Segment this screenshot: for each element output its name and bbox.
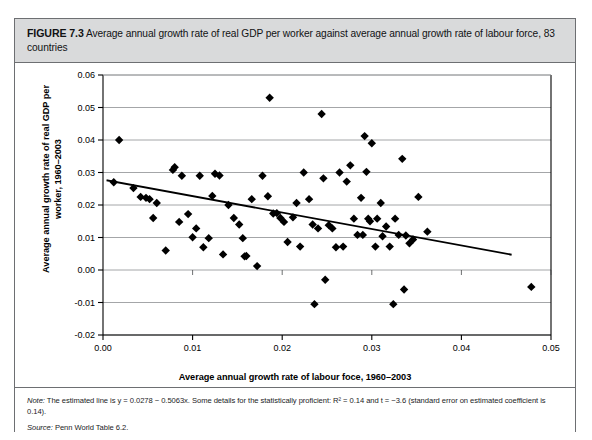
y-axis-tick-label: 0.04 — [77, 135, 95, 145]
source-paragraph: Source: Penn World Table 6.2. — [27, 423, 563, 434]
gridlines — [103, 75, 551, 335]
x-axis-title: Average annual growth rate of labour foc… — [15, 372, 575, 382]
data-point — [335, 168, 343, 176]
data-point — [414, 193, 422, 201]
chart-region: -0.02-0.010.000.010.020.030.040.050.060.… — [15, 63, 575, 388]
x-axis-tick-label: 0.05 — [542, 343, 560, 353]
data-point — [319, 174, 327, 182]
data-point — [219, 250, 227, 258]
data-point — [362, 168, 370, 176]
data-point — [398, 155, 406, 163]
data-point — [371, 242, 379, 250]
data-point — [377, 199, 385, 207]
y-axis-tick-label: 0.03 — [77, 168, 95, 178]
data-point — [235, 220, 243, 228]
data-point — [239, 234, 247, 242]
data-point — [357, 194, 365, 202]
figure-container: FIGURE 7.3 Average annual growth rate of… — [14, 18, 576, 432]
figure-number-label: FIGURE 7.3 — [27, 27, 84, 39]
data-point — [389, 300, 397, 308]
data-point — [253, 262, 261, 270]
data-point — [360, 132, 368, 140]
data-point — [205, 234, 213, 242]
data-point — [527, 283, 535, 291]
x-axis-tick-label: 0.04 — [453, 343, 471, 353]
figure-caption-text: Average annual growth rate of real GDP p… — [27, 28, 555, 53]
figure-caption: FIGURE 7.3 Average annual growth rate of… — [27, 26, 565, 55]
data-point — [265, 94, 273, 102]
data-point — [373, 214, 381, 222]
note-label: Note: — [27, 396, 45, 405]
x-axis-tick-label: 0.01 — [184, 343, 202, 353]
source-label: Source: — [27, 423, 53, 432]
data-point — [115, 136, 123, 144]
trendline — [107, 180, 510, 254]
data-point — [400, 285, 408, 293]
figure-caption-bar: FIGURE 7.3 Average annual growth rate of… — [15, 19, 575, 63]
scatter-plot: -0.02-0.010.000.010.020.030.040.050.060.… — [15, 63, 575, 388]
data-point — [162, 246, 170, 254]
data-point — [317, 110, 325, 118]
y-axis-tick-label: 0.02 — [77, 200, 95, 210]
y-axis-title: Average annual growth rate of real GDP p… — [40, 79, 64, 279]
data-point — [321, 276, 329, 284]
y-axis-tick-label: 0.01 — [77, 233, 95, 243]
data-points — [110, 94, 536, 309]
data-point — [292, 199, 300, 207]
data-point — [382, 222, 390, 230]
data-point — [332, 243, 340, 251]
data-point — [346, 161, 354, 169]
note-text: The estimated line is y = 0.0278 − 0.506… — [27, 396, 546, 416]
data-point — [378, 232, 386, 240]
note-paragraph: Note: The estimated line is y = 0.0278 −… — [27, 396, 563, 417]
source-text: Penn World Table 6.2. — [53, 423, 128, 432]
data-point — [175, 218, 183, 226]
data-point — [305, 195, 313, 203]
data-point — [296, 242, 304, 250]
data-point — [423, 227, 431, 235]
trendline-path — [107, 180, 510, 254]
x-axis-tick-label: 0.03 — [363, 343, 381, 353]
data-point — [192, 224, 200, 232]
data-point — [230, 214, 238, 222]
x-axis-tick-label: 0.02 — [273, 343, 291, 353]
y-axis-tick-label: 0.00 — [77, 265, 95, 275]
plot-wrapper: -0.02-0.010.000.010.020.030.040.050.060.… — [15, 63, 575, 387]
data-point — [391, 214, 399, 222]
data-point — [350, 214, 358, 222]
y-axis-tick-label: -0.02 — [74, 330, 95, 340]
y-axis-tick-label: 0.05 — [77, 103, 95, 113]
x-axis-tick-label: 0.00 — [94, 343, 112, 353]
data-point — [153, 199, 161, 207]
figure-notes: Note: The estimated line is y = 0.0278 −… — [15, 388, 575, 440]
data-point — [339, 242, 347, 250]
data-point — [248, 195, 256, 203]
data-point — [386, 242, 394, 250]
data-point — [199, 243, 207, 251]
data-point — [310, 300, 318, 308]
data-point — [283, 238, 291, 246]
data-point — [184, 210, 192, 218]
y-axis-tick-label: -0.01 — [74, 298, 95, 308]
y-axis-tick-label: 0.06 — [77, 70, 95, 80]
data-point — [149, 214, 157, 222]
data-point — [343, 177, 351, 185]
data-point — [188, 233, 196, 241]
axis-tick-labels: -0.02-0.010.000.010.020.030.040.050.060.… — [74, 70, 559, 353]
data-point — [300, 168, 308, 176]
data-point — [264, 192, 272, 200]
